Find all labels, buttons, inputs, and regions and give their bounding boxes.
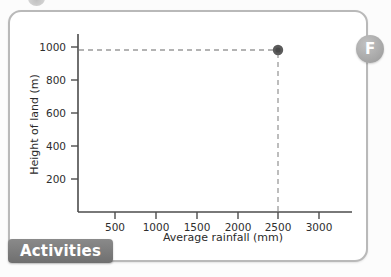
y-tick-label-800: 800 xyxy=(36,74,66,86)
activities-banner[interactable]: Activities xyxy=(8,239,113,263)
y-tick-label-1000: 1000 xyxy=(36,41,66,53)
section-badge-label: F xyxy=(365,40,375,58)
x-axis-title: Average rainfall (mm) xyxy=(78,231,368,244)
y-tick-label-400: 400 xyxy=(36,140,66,152)
y-tick-label-200: 200 xyxy=(36,173,66,185)
y-axis-title: Height of land (m) xyxy=(28,50,41,200)
section-badge-f: F xyxy=(356,35,384,63)
y-tick-label-600: 600 xyxy=(36,107,66,119)
activities-label: Activities xyxy=(20,242,101,260)
